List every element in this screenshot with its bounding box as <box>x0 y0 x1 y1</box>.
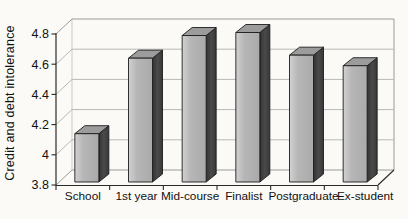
bar-front-face <box>182 36 206 182</box>
bar-front-face <box>343 66 367 182</box>
bar-front-face <box>75 134 99 182</box>
bar-front-face <box>129 58 153 182</box>
bar-front-face <box>236 33 260 182</box>
x-category-label: Mid-course <box>161 189 220 203</box>
bar-side-face <box>153 50 163 182</box>
y-tick-label: 4.6 <box>32 58 49 72</box>
y-axis-title: Credit and debt intolerance <box>3 25 17 181</box>
bar-front-face <box>290 55 314 182</box>
bar-side-face <box>367 58 377 182</box>
y-tick-label: 4.4 <box>32 88 49 102</box>
y-tick-label: 4.8 <box>32 27 49 41</box>
y-tick-label: 3.8 <box>32 178 49 192</box>
credit-debt-intolerance-3d-bar-chart: 3.844.24.44.64.8School1st yearMid-course… <box>0 0 408 219</box>
x-category-label: 1st year <box>116 189 158 203</box>
x-category-label: Postgraduate <box>268 189 339 203</box>
bar-side-face <box>206 28 216 182</box>
scanned-chart-page: 3.844.24.44.64.8School1st yearMid-course… <box>0 0 408 219</box>
floor-right-edge <box>378 170 394 185</box>
gridline-slant <box>56 49 72 64</box>
y-tick-label: 4.2 <box>32 118 49 132</box>
gridline-slant <box>56 170 72 185</box>
x-category-label: Ex-student <box>337 189 394 203</box>
chart-plot-area: 3.844.24.44.64.8School1st yearMid-course… <box>32 19 394 203</box>
bar-side-face <box>99 126 109 182</box>
x-category-label: Finalist <box>225 189 263 203</box>
y-tick-label: 4 <box>42 148 49 162</box>
gridline-slant <box>56 110 72 125</box>
bar-side-face <box>260 25 270 182</box>
gridline-slant <box>56 140 72 155</box>
x-category-label: School <box>65 189 101 203</box>
gridline-slant <box>56 79 72 94</box>
bar-side-face <box>314 47 324 182</box>
gridline-slant <box>56 19 72 34</box>
